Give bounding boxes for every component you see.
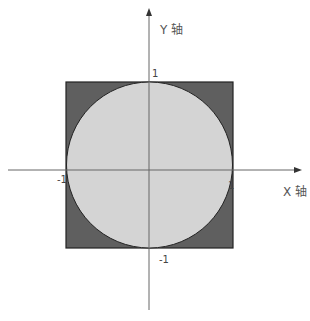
y-tick-neg: -1 (159, 254, 169, 265)
y-axis-label: Y 轴 (160, 20, 183, 37)
x-axis-label: X 轴 (283, 182, 307, 199)
x-tick-neg: -1 (57, 174, 67, 185)
y-tick-pos: 1 (152, 68, 158, 79)
x-tick-pos: 1 (228, 180, 234, 191)
diagram-canvas (0, 0, 310, 321)
